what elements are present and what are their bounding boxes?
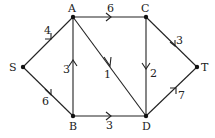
node-D xyxy=(144,114,148,118)
graph-diagram: 4 6 6 1 3 2 3 3 7 S A C T B D xyxy=(0,0,215,138)
weight-S-B: 6 xyxy=(42,95,49,108)
node-B xyxy=(71,114,75,118)
edge-C-T xyxy=(146,17,197,67)
node-T xyxy=(195,65,199,69)
edge-B-A xyxy=(69,17,77,116)
edge-A-D xyxy=(73,17,146,116)
weight-C-T: 3 xyxy=(176,34,183,47)
node-label-T: T xyxy=(201,61,209,74)
node-label-A: A xyxy=(67,2,77,15)
node-label-S: S xyxy=(9,61,17,74)
weight-S-A: 4 xyxy=(44,24,51,37)
node-S xyxy=(21,65,25,69)
node-label-C: C xyxy=(141,2,149,15)
weight-C-D: 2 xyxy=(150,67,157,80)
node-C xyxy=(144,15,148,19)
node-label-D: D xyxy=(142,120,151,133)
node-label-B: B xyxy=(69,120,77,133)
weight-D-T: 7 xyxy=(178,89,185,102)
weight-A-D: 1 xyxy=(104,68,111,81)
edge-C-D xyxy=(142,17,150,116)
weight-B-D: 3 xyxy=(106,119,113,132)
weight-B-A: 3 xyxy=(63,63,70,76)
node-A xyxy=(71,15,75,19)
weight-A-C: 6 xyxy=(107,2,114,15)
